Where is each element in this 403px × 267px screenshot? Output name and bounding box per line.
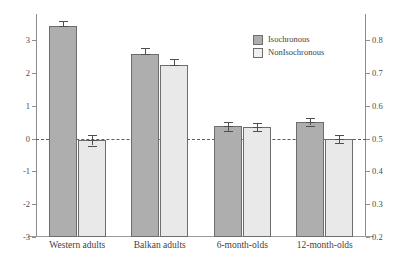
left-axis-tick-label: -1	[23, 167, 30, 176]
right-axis-tick-label: 0.8	[372, 36, 383, 45]
bar	[214, 126, 242, 237]
left-axis-tick-label: 0	[26, 134, 30, 143]
tick-mark	[366, 237, 370, 238]
right-axis-tick-label: 0.7	[372, 69, 383, 78]
bar	[325, 139, 353, 237]
error-bar-cap	[335, 135, 344, 136]
error-bar-cap	[224, 131, 233, 132]
tick-mark	[366, 139, 370, 140]
tick-mark	[32, 40, 36, 41]
bar	[49, 26, 77, 237]
bar	[243, 127, 271, 237]
tick-mark	[32, 237, 36, 238]
error-bar-cap	[141, 48, 150, 49]
bar	[78, 140, 106, 237]
right-axis-tick-label: 0.3	[372, 200, 383, 209]
tick-mark	[32, 73, 36, 74]
error-bar-cap	[335, 143, 344, 144]
right-axis-tick-label: 0.4	[372, 167, 383, 176]
left-axis-tick-label: -3	[23, 233, 30, 242]
legend-swatch-icon	[253, 35, 263, 45]
category-label: Western adults	[49, 240, 105, 250]
error-bar-cap	[306, 126, 315, 127]
right-axis-tick-label: 0.6	[372, 102, 383, 111]
legend-label: Isochronous	[268, 34, 310, 45]
y-axis-right-title: Novelty preference	[193, 0, 211, 220]
category-label: 6-month-olds	[217, 240, 268, 250]
error-bar-cap	[59, 26, 68, 27]
tick-mark	[366, 40, 370, 41]
error-bar-cap	[306, 118, 315, 119]
tick-mark	[366, 204, 370, 205]
tick-mark	[366, 106, 370, 107]
left-axis-tick-label: 2	[26, 69, 30, 78]
right-axis-tick-label: 0.5	[372, 134, 383, 143]
error-bar-cap	[253, 123, 262, 124]
tick-mark	[366, 171, 370, 172]
error-bar-cap	[88, 146, 97, 147]
left-axis-tick-label: -2	[23, 200, 30, 209]
error-bar-cap	[253, 131, 262, 132]
error-bar-cap	[224, 122, 233, 123]
error-bar-cap	[170, 59, 179, 60]
error-bar-cap	[59, 21, 68, 22]
legend-item-nonisochronous: NonIsochronous	[253, 47, 324, 58]
legend-label: NonIsochronous	[268, 47, 324, 58]
error-bar-cap	[170, 65, 179, 66]
bar	[131, 54, 159, 237]
tick-mark	[366, 73, 370, 74]
right-axis-tick-label: 0.2	[372, 233, 383, 242]
bar	[296, 122, 324, 237]
legend-swatch-icon	[253, 48, 263, 58]
category-label: Balkan adults	[134, 240, 186, 250]
tick-mark	[32, 106, 36, 107]
tick-mark	[32, 204, 36, 205]
category-label: 12-month-olds	[297, 240, 353, 250]
left-axis-line	[36, 14, 37, 237]
left-axis-tick-label: 1	[26, 102, 30, 111]
tick-mark	[32, 171, 36, 172]
bar	[160, 65, 188, 237]
chart-legend: Isochronous NonIsochronous	[253, 34, 324, 60]
legend-item-isochronous: Isochronous	[253, 34, 324, 45]
error-bar-cap	[141, 54, 150, 55]
left-axis-tick-label: 3	[26, 36, 30, 45]
error-bar-cap	[88, 135, 97, 136]
chart-figure: Accuracy -3-2-10123 0.20.30.40.50.60.70.…	[0, 0, 403, 267]
